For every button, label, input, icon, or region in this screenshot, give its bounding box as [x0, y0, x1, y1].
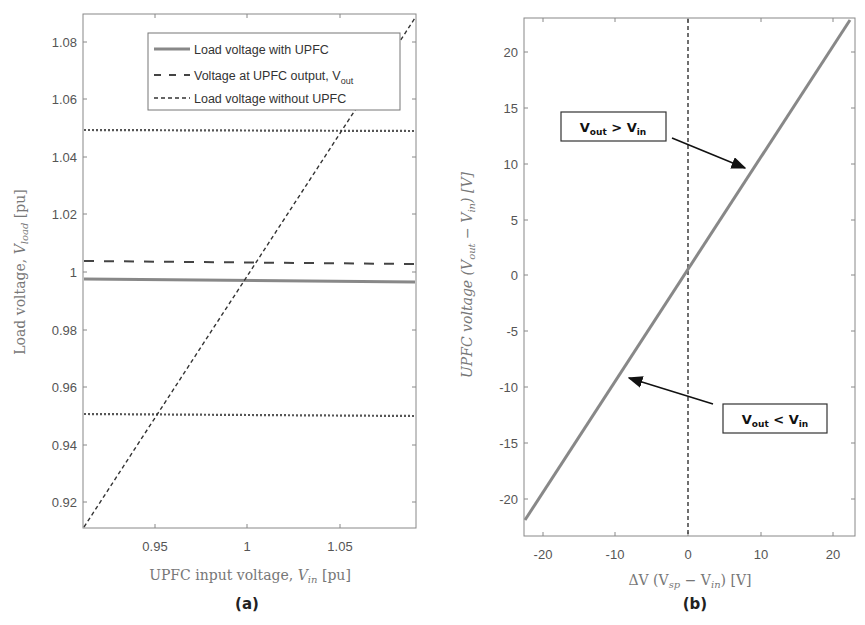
- x-tick-label: 0: [684, 547, 691, 562]
- y-tick-label: 5: [511, 213, 518, 228]
- x-tick-label: 10: [754, 547, 768, 562]
- y-tick-label: 0: [511, 268, 518, 283]
- x-tick-label: -20: [534, 547, 553, 562]
- caption-b: (b): [683, 595, 707, 613]
- chart-panel-a: 1.08 1.06 1.04 1.02 1 0.98 0.96 0.94 0.9…: [12, 14, 416, 613]
- y-tick-label: -10: [499, 380, 518, 395]
- chart-panel-b: 20 15 10 5 0 -5 -10 -15 -20 -20 -10 0 10…: [459, 18, 855, 613]
- x-tick-label: 20: [826, 547, 840, 562]
- x-axis-label-b: ΔV (Vsp − Vin) [V]: [628, 572, 751, 590]
- y-tick-label: 0.96: [52, 380, 77, 395]
- annotation-text: Vout > Vin: [580, 120, 646, 137]
- y-tick-label: -15: [499, 436, 518, 451]
- legend-item-with-upfc: Load voltage with UPFC: [194, 43, 329, 57]
- y-axis-label-a: Load voltage, Vload [pu]: [12, 189, 30, 355]
- x-tick-label: 1: [243, 539, 250, 554]
- figure: 1.08 1.06 1.04 1.02 1 0.98 0.96 0.94 0.9…: [0, 0, 865, 625]
- x-tick-labels-a: 0.95 1 1.05: [142, 539, 352, 554]
- y-tick-label: -20: [499, 492, 518, 507]
- y-axis-label-b: UPFC voltage (Vout − Vin) [V]: [459, 171, 477, 378]
- y-tick-label: 15: [504, 101, 518, 116]
- annotation-text: Vout < Vin: [742, 412, 808, 429]
- x-axis-label-a: UPFC input voltage, Vin [pu]: [149, 567, 351, 585]
- y-tick-label: 1.06: [52, 92, 77, 107]
- y-tick-label: 10: [504, 157, 518, 172]
- x-tick-label: -10: [606, 547, 625, 562]
- y-tick-label: 0.98: [52, 323, 77, 338]
- x-tick-label: 0.95: [142, 539, 167, 554]
- y-tick-label: 0.94: [52, 438, 77, 453]
- x-tick-labels-b: -20 -10 0 10 20: [534, 547, 841, 562]
- y-tick-label: 0.92: [52, 495, 77, 510]
- legend-a: Load voltage with UPFC Voltage at UPFC o…: [148, 33, 400, 110]
- caption-a: (a): [235, 595, 259, 613]
- y-tick-labels-a: 1.08 1.06 1.04 1.02 1 0.98 0.96 0.94 0.9…: [52, 35, 77, 510]
- y-tick-label: -5: [506, 324, 518, 339]
- y-tick-label: 1.08: [52, 35, 77, 50]
- y-tick-label: 1.02: [52, 207, 77, 222]
- y-tick-label: 20: [504, 45, 518, 60]
- y-tick-label: 1.04: [52, 150, 77, 165]
- y-tick-labels-b: 20 15 10 5 0 -5 -10 -15 -20: [499, 45, 518, 507]
- y-tick-label: 1: [70, 265, 77, 280]
- legend-item-without-upfc: Load voltage without UPFC: [194, 92, 346, 106]
- x-tick-label: 1.05: [327, 539, 352, 554]
- upper-limit-line: [84, 130, 415, 131]
- plot-area-b: [524, 18, 855, 536]
